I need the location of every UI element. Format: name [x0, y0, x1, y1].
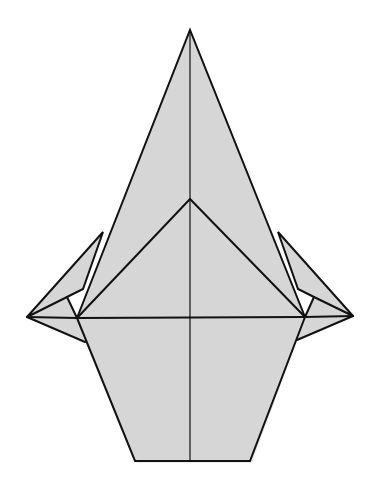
base-body: [77, 317, 305, 461]
origami-diagram: [0, 0, 381, 498]
horizontal-crease: [77, 317, 305, 318]
top-point: [77, 30, 305, 318]
origami-figure: [0, 0, 381, 498]
